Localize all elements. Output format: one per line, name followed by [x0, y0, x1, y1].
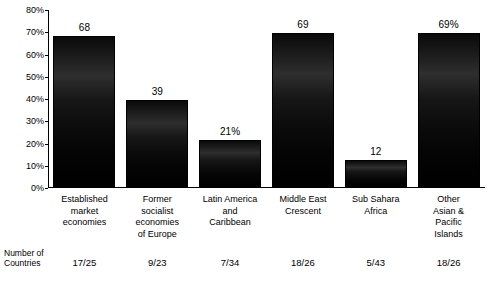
x-axis-category-label: OtherAsian &PacificIslands — [413, 194, 485, 240]
bar — [272, 33, 334, 187]
bar-chart: 0%10%20%30%40%50%60%70%80% 683921%691269… — [0, 0, 495, 288]
footer-value: 18/26 — [267, 257, 339, 268]
bar-slot — [121, 100, 193, 187]
bar-slot — [267, 33, 339, 187]
x-axis-category-label: Middle EastCrescent — [267, 194, 339, 217]
bar — [418, 33, 480, 187]
category-label-line: of Europe — [121, 229, 193, 241]
x-axis-category-label: Latin AmericaandCaribbean — [194, 194, 266, 229]
bar — [345, 160, 407, 187]
y-axis-tick-label: 20% — [26, 140, 44, 149]
footer-value: 18/26 — [413, 257, 485, 268]
x-axis-category-label: Establishedmarketeconomies — [48, 194, 120, 229]
y-axis-tick-label: 70% — [26, 28, 44, 37]
bar-series: 683921%691269% — [48, 10, 485, 188]
category-label-line: Caribbean — [194, 217, 266, 229]
bar-slot — [194, 140, 266, 187]
y-axis-tick-mark — [45, 188, 48, 189]
category-label-line: Islands — [413, 229, 485, 241]
y-axis-tick-label: 40% — [26, 95, 44, 104]
category-label-line: Pacific — [413, 217, 485, 229]
bar-slot — [413, 33, 485, 187]
y-axis-tick-label: 60% — [26, 51, 44, 60]
bar-slot — [340, 160, 412, 187]
y-axis-tick-label: 50% — [26, 73, 44, 82]
bar-slot — [48, 36, 120, 187]
category-label-line: economies — [48, 217, 120, 229]
bar-value-label: 69 — [267, 19, 339, 30]
y-axis-tick-label: 10% — [26, 162, 44, 171]
footer-value: 7/34 — [194, 257, 266, 268]
bar-value-label: 12 — [340, 146, 412, 157]
footer-values-row: 17/259/237/3418/265/4318/26 — [48, 257, 485, 271]
category-label-line: Africa — [340, 206, 412, 218]
category-label-line: Asian & — [413, 206, 485, 218]
plot-area: 0%10%20%30%40%50%60%70%80% 683921%691269… — [48, 10, 485, 188]
bar-value-label: 21% — [194, 126, 266, 137]
y-axis-tick-label: 80% — [26, 6, 44, 15]
category-label-line: economies — [121, 217, 193, 229]
category-label-line: Established — [48, 194, 120, 206]
category-label-line: Crescent — [267, 206, 339, 218]
category-label-line: Latin America — [194, 194, 266, 206]
bar-value-label: 39 — [121, 86, 193, 97]
x-axis-category-label: Formersocialisteconomiesof Europe — [121, 194, 193, 240]
category-label-line: Sub Sahara — [340, 194, 412, 206]
bar — [53, 36, 115, 187]
category-label-line: Middle East — [267, 194, 339, 206]
category-label-line: market — [48, 206, 120, 218]
bar — [199, 140, 261, 187]
bar-value-label: 68 — [48, 22, 120, 33]
category-label-line: socialist — [121, 206, 193, 218]
y-axis-tick-label: 30% — [26, 117, 44, 126]
bar-value-label: 69% — [413, 19, 485, 30]
category-label-line: and — [194, 206, 266, 218]
footer-value: 17/25 — [48, 257, 120, 268]
category-label-line: Former — [121, 194, 193, 206]
x-axis-category-labels: EstablishedmarketeconomiesFormersocialis… — [48, 194, 485, 246]
bar — [126, 100, 188, 187]
footer-value: 9/23 — [121, 257, 193, 268]
category-label-line: Other — [413, 194, 485, 206]
footer-value: 5/43 — [340, 257, 412, 268]
y-axis-tick-label: 0% — [31, 184, 44, 193]
x-axis-category-label: Sub SaharaAfrica — [340, 194, 412, 217]
